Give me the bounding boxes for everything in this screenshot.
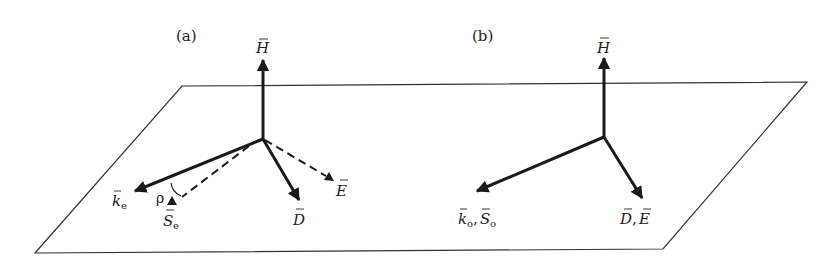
label-k-s-o: k o , S o [458,209,496,229]
vector-d-e-b [604,137,642,198]
label-h-a: H [255,39,270,57]
rho-angle-arc [171,183,181,196]
vector-k-s-o [477,137,604,191]
svg-text:,: , [632,210,637,228]
vector-k-e [135,139,263,191]
svg-text:D: D [292,211,305,229]
svg-text:e: e [121,200,127,211]
svg-text:,: , [473,210,478,228]
diagram-canvas: (a) H k e ρ S e [0,0,839,264]
s-e-arrowhead [167,196,177,205]
panel-a: (a) H k e ρ S e [112,27,348,231]
panel-b: (b) H k o , S o D , E [458,27,651,229]
label-d-a: D [292,209,305,229]
svg-text:k: k [458,210,467,228]
svg-text:H: H [596,39,611,57]
label-s-e: S e [163,210,179,231]
label-k-e: k e [112,191,127,211]
plane [35,82,807,253]
svg-text:k: k [112,192,121,210]
svg-text:H: H [255,39,270,57]
svg-text:o: o [490,218,496,229]
wave-vector-diagram: (a) H k e ρ S e [0,0,839,264]
svg-text:D: D [619,210,632,228]
label-rho: ρ [156,190,164,206]
vector-s-e-dashed [182,146,249,197]
vector-d-a [263,139,299,200]
svg-text:e: e [173,220,179,231]
svg-text:S: S [480,210,490,228]
svg-text:E: E [638,210,650,228]
label-h-b: H [596,38,611,57]
svg-text:S: S [163,212,173,230]
svg-text:E: E [335,182,347,200]
panel-a-label: (a) [176,27,197,45]
panel-b-label: (b) [472,27,493,45]
label-e-a: E [335,180,348,200]
label-d-e-b: D , E [619,209,651,228]
